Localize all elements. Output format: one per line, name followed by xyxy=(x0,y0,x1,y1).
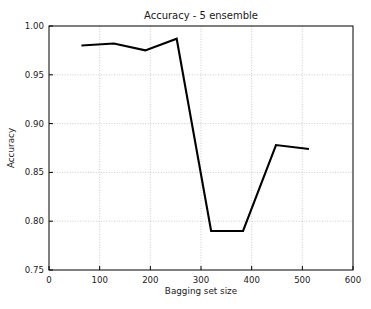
y-tick-label: 0.75 xyxy=(25,265,44,275)
x-tick-label: 200 xyxy=(142,275,158,285)
y-axis-title: Accuracy xyxy=(6,128,16,168)
chart-figure: 0100200300400500600 0.750.800.850.900.95… xyxy=(0,0,371,309)
y-tick-label: 0.80 xyxy=(25,216,44,226)
y-tick-label: 0.90 xyxy=(25,119,44,129)
x-tick-label: 100 xyxy=(91,275,107,285)
x-tick-label: 400 xyxy=(243,275,259,285)
y-tick-label: 0.95 xyxy=(25,70,44,80)
x-tick-label: 500 xyxy=(294,275,310,285)
accuracy-line-chart: 0100200300400500600 0.750.800.850.900.95… xyxy=(0,0,371,309)
x-tick-label: 600 xyxy=(345,275,361,285)
x-tick-label: 300 xyxy=(193,275,209,285)
chart-title: Accuracy - 5 ensemble xyxy=(144,10,258,21)
y-tick-label: 0.85 xyxy=(25,167,44,177)
x-axis-title: Bagging set size xyxy=(165,286,237,296)
x-tick-label: 0 xyxy=(46,275,51,285)
y-tick-label: 1.00 xyxy=(25,21,44,31)
